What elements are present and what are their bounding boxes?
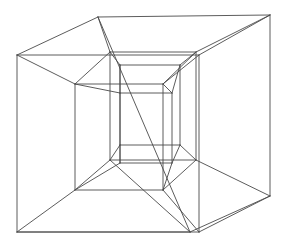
tesseract-wireframe-svg: [0, 0, 284, 246]
tesseract-figure: [0, 0, 284, 246]
